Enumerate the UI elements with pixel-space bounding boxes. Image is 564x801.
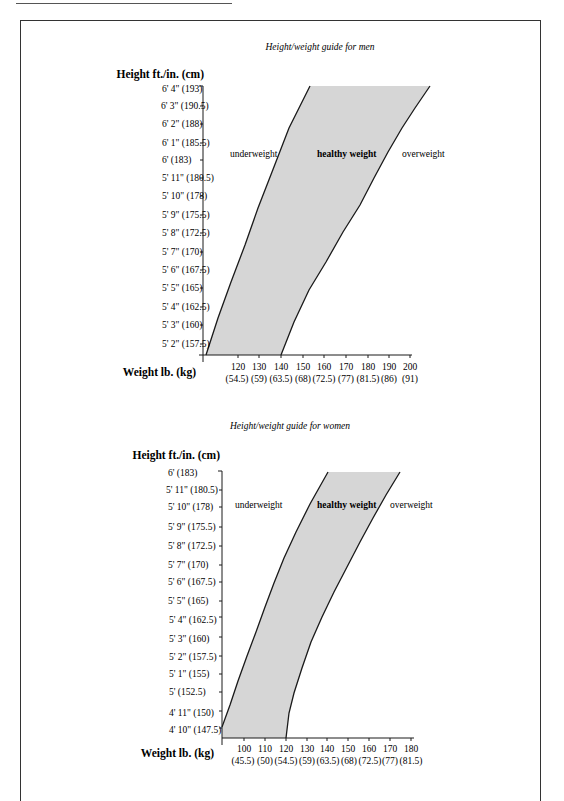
x-tick-kg: (63.5) <box>270 374 293 385</box>
x-tick-kg: (77) <box>338 374 354 385</box>
x-tick-kg: (68) <box>341 756 357 767</box>
y-tick-label: 5' 11" (180.5) <box>162 173 214 184</box>
y-tick-label: 5' 4" (162.5) <box>162 302 210 313</box>
y-tick-label: 4' 10" (147.5) <box>169 725 221 736</box>
chart-title-women: Height/weight guide for women <box>229 421 350 431</box>
zone-underweight-women: underweight <box>235 500 283 510</box>
chart-women: Height/weight guide for women Height ft.… <box>132 421 433 767</box>
x-tick-lb: 180 <box>361 362 376 372</box>
x-tick-lb: 150 <box>341 744 356 754</box>
y-tick-label: 5' 8" (172.5) <box>162 228 210 239</box>
y-tick-label: 5' 6" (167.5) <box>168 577 216 588</box>
y-tick-label: 6' (183) <box>162 155 191 166</box>
y-tick-label: 5' 7" (170) <box>162 247 202 258</box>
zone-healthy-men: healthy weight <box>317 149 377 159</box>
x-tick-kg: (77) <box>382 756 398 767</box>
healthy-band-men <box>206 86 430 355</box>
x-tick-kg: (59) <box>251 374 267 385</box>
y-tick-label: 5' 2" (157.5) <box>169 652 217 663</box>
x-tick-kg: (72.5) <box>313 374 336 385</box>
x-tick-lb: 120 <box>231 362 246 372</box>
x-tick-lb: 190 <box>382 362 397 372</box>
x-tick-kg: (45.5) <box>232 756 255 767</box>
y-tick-label: 5' 10" (178) <box>162 191 207 202</box>
zone-underweight-men: underweight <box>230 149 278 159</box>
y-tick-labels-men: 6' 4" (193) 6' 3" (190.5) 6' 2" (188) 6'… <box>161 84 214 350</box>
zone-overweight-men: overweight <box>402 149 445 159</box>
y-tick-label: 5' 4" (162.5) <box>169 615 217 626</box>
y-tick-label: 5' (152.5) <box>169 687 206 698</box>
y-tick-label: 5' 5" (165) <box>168 596 208 607</box>
y-tick-label: 5' 1" (155) <box>169 669 209 680</box>
y-axis-title-women: Height ft./in. (cm) <box>132 449 220 462</box>
x-tick-kg: (86) <box>381 374 397 385</box>
zone-healthy-women: healthy weight <box>317 500 377 510</box>
x-tick-kg: (91) <box>402 374 418 385</box>
y-tick-label: 5' 3" (160) <box>162 320 202 331</box>
x-tick-lb: 200 <box>403 362 418 372</box>
y-tick-label: 6' (183) <box>168 468 197 479</box>
x-tick-lb: 170 <box>383 744 398 754</box>
chart-men: Height/weight guide for men Height ft./i… <box>116 42 445 385</box>
x-tick-kg: (81.5) <box>400 756 423 767</box>
x-tick-labels-women: 100 110 120 130 140 150 160 170 180 (45.… <box>232 744 423 767</box>
y-tick-label: 5' 11" (180.5) <box>166 485 218 496</box>
x-tick-lb: 160 <box>317 362 332 372</box>
x-tick-kg: (72.5) <box>359 756 382 767</box>
x-tick-labels-men: 120 130 140 150 160 170 180 190 200 (54.… <box>226 362 418 385</box>
x-tick-kg: (59) <box>299 756 315 767</box>
x-tick-lb: 100 <box>237 744 252 754</box>
y-tick-label: 5' 9" (175.5) <box>168 522 216 533</box>
y-tick-label: 5' 3" (160) <box>169 634 209 645</box>
x-tick-lb: 170 <box>339 362 354 372</box>
x-tick-kg: (63.5) <box>317 756 340 767</box>
x-axis-title-men: Weight lb. (kg) <box>123 366 196 379</box>
chart-title-men: Height/weight guide for men <box>265 42 375 52</box>
y-tick-label: 5' 10" (178) <box>168 502 213 513</box>
x-tick-kg: (68) <box>295 374 311 385</box>
x-tick-kg: (54.5) <box>275 756 298 767</box>
y-tick-label: 5' 7" (170) <box>168 560 208 571</box>
y-tick-label: 5' 9" (175.5) <box>162 210 210 221</box>
y-tick-label: 5' 5" (165) <box>162 283 202 294</box>
x-tick-lb: 110 <box>258 744 272 754</box>
y-tick-label: 6' 2" (188) <box>162 119 202 130</box>
y-axis-title-men: Height ft./in. (cm) <box>116 68 204 81</box>
healthy-band-women <box>222 472 400 738</box>
y-tick-label: 6' 4" (193) <box>162 84 202 95</box>
x-tick-kg: (81.5) <box>357 374 380 385</box>
x-axis-title-women: Weight lb. (kg) <box>141 747 214 760</box>
x-tick-lb: 150 <box>296 362 311 372</box>
x-tick-lb: 120 <box>279 744 294 754</box>
y-tick-labels-women: 6' (183) 5' 11" (180.5) 5' 10" (178) 5' … <box>166 468 221 736</box>
x-tick-lb: 160 <box>362 744 377 754</box>
x-tick-kg: (50) <box>257 756 273 767</box>
x-tick-lb: 130 <box>300 744 315 754</box>
x-tick-lb: 180 <box>404 744 419 754</box>
y-tick-label: 5' 8" (172.5) <box>168 541 216 552</box>
y-tick-label: 5' 6" (167.5) <box>162 265 210 276</box>
y-tick-label: 6' 3" (190.5) <box>161 101 209 112</box>
x-tick-lb: 140 <box>320 744 335 754</box>
x-tick-lb: 140 <box>274 362 289 372</box>
y-tick-label: 5' 2" (157.5) <box>162 339 210 350</box>
y-tick-label: 4' 11" (150) <box>169 708 214 719</box>
x-tick-kg: (54.5) <box>226 374 249 385</box>
x-tick-lb: 130 <box>252 362 267 372</box>
zone-overweight-women: overweight <box>390 500 433 510</box>
y-tick-label: 6' 1" (185.5) <box>162 138 210 149</box>
